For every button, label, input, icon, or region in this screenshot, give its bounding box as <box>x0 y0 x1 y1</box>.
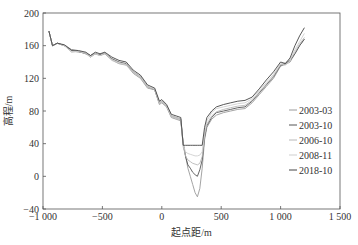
legend-label: 2003-03 <box>299 105 332 116</box>
y-axis-label: 高程/m <box>2 96 14 127</box>
x-tick-label: 1 000 <box>269 211 292 222</box>
legend: 2003-032003-102006-102008-112018-10 <box>289 105 332 176</box>
y-tick-label: −40 <box>23 204 39 215</box>
y-tick-label: 80 <box>29 106 39 117</box>
x-axis-label: 起点距/m <box>171 227 212 238</box>
y-tick-label: 200 <box>24 8 39 19</box>
x-tick-label: 1 500 <box>329 211 352 222</box>
y-tick-label: 120 <box>24 73 39 84</box>
legend-label: 2008-11 <box>299 150 332 161</box>
series-line-2008-11 <box>49 31 305 156</box>
legend-label: 2006-10 <box>299 135 332 146</box>
x-tick-label: 0 <box>159 211 164 222</box>
series-line-2006-10 <box>49 31 305 165</box>
plot-area <box>49 28 305 197</box>
legend-label: 2018-10 <box>299 165 332 176</box>
line-chart: −1 000−50005001 0001 500−400408012016020… <box>0 0 358 245</box>
y-tick-label: 0 <box>34 171 39 182</box>
x-tick-label: 500 <box>214 211 229 222</box>
x-tick-label: −500 <box>92 211 113 222</box>
y-tick-label: 40 <box>29 138 39 149</box>
y-tick-label: 160 <box>24 40 39 51</box>
series-line-2003-03 <box>49 31 305 197</box>
legend-label: 2003-10 <box>299 120 332 131</box>
